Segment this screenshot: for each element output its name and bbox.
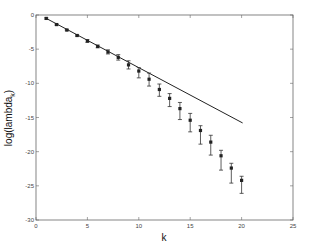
data-point [229,163,233,183]
marker [168,97,171,100]
marker [117,56,120,59]
marker [199,129,202,132]
marker [230,166,233,169]
y-tick-label: -30 [25,217,34,223]
chart: 05101520250-5-10-15-20-25-30 k log(lambd… [0,0,311,245]
error-bar-series [44,17,243,194]
y-tick-label: -15 [25,115,34,121]
marker [219,154,222,157]
data-point [85,39,89,42]
data-point [240,176,244,193]
data-point [55,23,59,26]
x-axis-label: k [162,232,168,243]
data-point [178,102,182,119]
x-tick-label: 15 [187,223,194,229]
data-point [157,84,161,96]
y-axis-label-close: ) [3,90,14,93]
data-point [137,68,141,78]
marker [178,107,181,110]
marker [96,45,99,48]
marker [106,50,109,53]
data-point [106,50,110,54]
marker [240,179,243,182]
plot-axes [36,15,293,220]
marker [76,34,79,37]
marker [158,88,161,91]
y-axis-label: log(lambdak) [3,90,16,146]
y-tick-label: -25 [25,183,34,189]
x-tick-label: 5 [86,223,90,229]
marker [65,28,68,31]
y-tick-label: -20 [25,149,34,155]
marker [209,141,212,144]
data-point [168,94,172,107]
marker [189,119,192,122]
plot-frame [36,15,293,220]
y-tick-label: -10 [25,80,34,86]
x-tick-label: 25 [290,223,297,229]
axis-ticks: 05101520250-5-10-15-20-25-30 [25,12,297,229]
data-point [96,45,100,48]
marker [127,63,130,66]
y-tick-label: 0 [31,12,35,18]
data-point [75,34,79,37]
data-point [147,73,151,86]
marker [55,23,58,26]
data-point [219,150,223,170]
x-tick-label: 10 [135,223,142,229]
data-point [198,126,202,144]
data-point [209,135,213,155]
marker [137,69,140,72]
x-tick-label: 20 [238,223,245,229]
y-tick-label: -5 [29,46,35,52]
data-point [188,113,192,131]
marker [45,17,48,20]
y-axis-label-main: log(lambda [3,96,14,146]
marker [86,39,89,42]
data-point [65,28,69,31]
x-tick-label: 0 [34,223,38,229]
data-point [44,17,48,20]
marker [147,78,150,81]
